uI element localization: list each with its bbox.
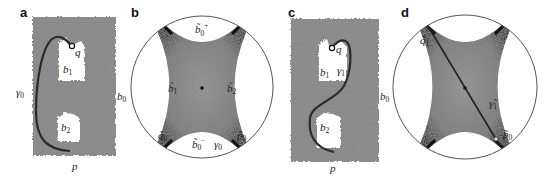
- label-b2-b: b̃2: [227, 82, 237, 96]
- label-p-c: p: [329, 162, 336, 174]
- label-p-a: p: [71, 160, 78, 172]
- point-q-c: [329, 45, 334, 50]
- figure-canvas: a q b1 γ0 b0 b2 p b b̃0+ b̃1 b̃2 q̃0: [0, 0, 549, 181]
- center-point-b: [200, 86, 204, 90]
- label-gamma0-b: γ0: [214, 138, 222, 152]
- point-p0-d: [494, 137, 498, 141]
- panel-label-b: b: [131, 5, 139, 20]
- label-b0-c: b0: [380, 90, 390, 104]
- label-q-c: q: [336, 43, 342, 55]
- label-p0-d: p̃0: [502, 128, 513, 142]
- panel-label-d: d: [401, 5, 409, 20]
- center-point-d: [463, 86, 467, 90]
- panel-label-a: a: [20, 5, 28, 20]
- point-q-a: [69, 43, 74, 48]
- panel-b: b b̃0+ b̃1 b̃2 q̃0 b̃0− γ0 p̃0: [131, 5, 273, 158]
- label-b0-plus-b: b̃0+: [195, 22, 208, 38]
- panel-c: c q b1 γ1 b0 b2 p: [288, 5, 390, 174]
- label-q-a: q: [75, 46, 81, 58]
- label-b0-minus-b: b̃0−: [192, 137, 205, 152]
- panel-a: a q b1 γ0 b0 b2 p: [16, 5, 127, 172]
- label-gamma0-a: γ0: [16, 86, 24, 100]
- panel-d: d q̃1 γ̃1 p̃0: [393, 5, 537, 159]
- label-p0-b: p̃0: [236, 129, 247, 143]
- label-b0-a: b0: [117, 90, 127, 104]
- panel-label-c: c: [288, 5, 295, 20]
